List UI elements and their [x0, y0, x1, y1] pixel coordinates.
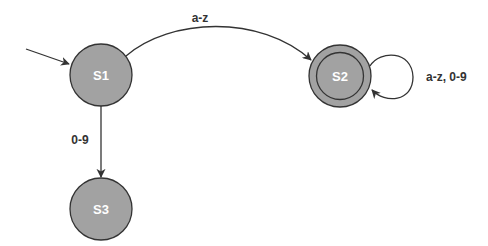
state-label-s1: S1	[93, 68, 109, 83]
transition-s2-self-loop: a-z, 0-9	[370, 55, 467, 99]
transition-label-s2-s2: a-z, 0-9	[426, 70, 467, 84]
transition-s1-s2: a-z	[126, 11, 311, 60]
state-label-s2: S2	[332, 69, 348, 84]
transition-label-s1-s2: a-z	[192, 11, 209, 25]
state-diagram: a-z 0-9 a-z, 0-9 S1 S2 S3	[0, 0, 488, 246]
initial-arrow	[26, 49, 69, 64]
transition-label-s1-s3: 0-9	[71, 133, 89, 147]
state-label-s3: S3	[93, 202, 109, 217]
state-s2-accepting: S2	[309, 45, 371, 107]
transition-s1-s3: 0-9	[71, 106, 101, 177]
state-s3: S3	[70, 178, 132, 240]
state-s1: S1	[70, 44, 132, 106]
